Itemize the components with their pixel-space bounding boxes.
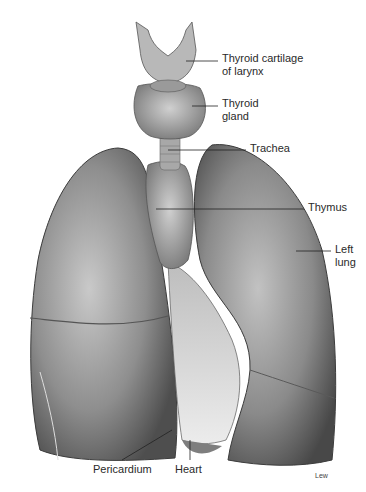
- label-line: Thyroid: [222, 97, 259, 110]
- larynx: [136, 22, 196, 92]
- label-line: Left: [335, 243, 356, 256]
- artist-credit: Lew: [315, 472, 328, 479]
- label-trachea: Trachea: [250, 142, 290, 155]
- label-line: lung: [335, 256, 356, 269]
- label-line: Heart: [175, 463, 202, 476]
- label-heart: Heart: [175, 463, 202, 476]
- label-thyroid-cartilage: Thyroid cartilage of larynx: [222, 52, 303, 78]
- label-thymus: Thymus: [308, 201, 347, 214]
- label-line: Trachea: [250, 142, 290, 155]
- label-line: Thymus: [308, 201, 347, 214]
- label-left-lung: Left lung: [335, 243, 356, 269]
- lungs-illustration: [0, 0, 366, 492]
- label-line: of larynx: [222, 65, 303, 78]
- label-pericardium: Pericardium: [93, 463, 152, 476]
- label-line: Pericardium: [93, 463, 152, 476]
- label-line: Thyroid cartilage: [222, 52, 303, 65]
- label-line: gland: [222, 110, 259, 123]
- label-thyroid-gland: Thyroid gland: [222, 97, 259, 123]
